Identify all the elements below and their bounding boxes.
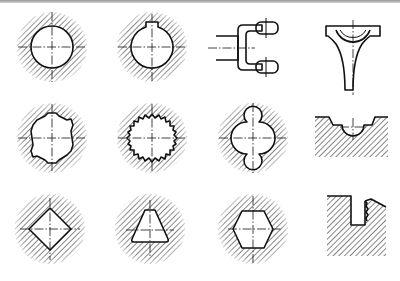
shifter-fork <box>326 20 380 95</box>
triangular-hole-section <box>115 194 185 264</box>
square-hole-section <box>15 194 85 264</box>
multi-arc-hole-section <box>218 103 288 173</box>
stepped-slot-block <box>327 196 386 256</box>
technical-drawing-sheet <box>0 0 400 281</box>
serrated-hole-section <box>117 103 187 173</box>
fork-yoke <box>208 18 278 77</box>
semicircular-groove-block <box>315 117 388 157</box>
keyway-hole-section <box>117 12 187 82</box>
hexagonal-hole-section <box>218 194 288 264</box>
round-hole-section <box>17 12 87 82</box>
spline-hole-section <box>17 103 87 173</box>
